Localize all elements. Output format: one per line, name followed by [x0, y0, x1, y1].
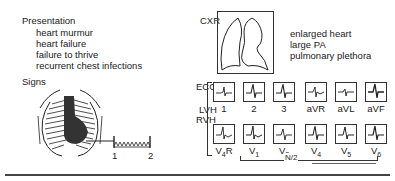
- ecg-trace-lead-v4r: [213, 124, 235, 144]
- ecg-trace-lead-v4: [305, 124, 327, 144]
- presentation-item: recurrent chest infections: [36, 60, 142, 71]
- murmur-marker-1: 1: [112, 150, 117, 161]
- cxr-finding: enlarged heart: [290, 28, 371, 39]
- presentation-heading: Presentation: [22, 15, 75, 26]
- presentation-item: failure to thrive: [36, 49, 142, 60]
- cxr-findings: enlarged heart large PA pulmonary pletho…: [290, 28, 371, 61]
- ecg-trace-lead-v2: [273, 124, 295, 144]
- ecg-chest-label: V4R: [208, 145, 240, 158]
- signs-heading: Signs: [22, 76, 46, 87]
- ecg-trace-lead-2: [243, 82, 265, 102]
- ecg-limb-label: 3: [268, 103, 300, 114]
- ecg-limb-label: aVL: [330, 103, 362, 114]
- ecg-limb-label: aVR: [300, 103, 332, 114]
- ecg-trace-lead-1: [213, 82, 235, 102]
- presentation-list: heart murmur heart failure failure to th…: [36, 27, 142, 71]
- ecg-limb-label: aVF: [360, 103, 392, 114]
- cxr-finding: pulmonary plethora: [290, 50, 371, 61]
- ecg-bracket-label: N/2: [284, 153, 298, 162]
- cxr-finding: large PA: [290, 39, 371, 50]
- ecg-limb-leads: 1 2 3 aVR aVL aVF: [213, 82, 393, 122]
- presentation-item: heart failure: [36, 38, 142, 49]
- ecg-trace-lead-v1: [243, 124, 265, 144]
- ecg-chest-underline: [312, 163, 376, 164]
- divider: [5, 174, 390, 176]
- presentation-item: heart murmur: [36, 27, 142, 38]
- cxr-image: [217, 11, 274, 74]
- murmur-marker-2: 2: [148, 150, 153, 161]
- murmur-diagram: [86, 136, 156, 152]
- ecg-trace-lead-avr: [305, 82, 327, 102]
- ecg-limb-label: 2: [238, 103, 270, 114]
- ecg-trace-lead-3: [273, 82, 295, 102]
- ecg-chest-bracket: [240, 156, 378, 161]
- ecg-trace-lead-v6: [365, 124, 387, 144]
- ecg-limb-label: 1: [208, 103, 240, 114]
- ecg-trace-lead-avl: [335, 82, 357, 102]
- ecg-trace-lead-avf: [365, 82, 387, 102]
- ecg-trace-lead-v5: [335, 124, 357, 144]
